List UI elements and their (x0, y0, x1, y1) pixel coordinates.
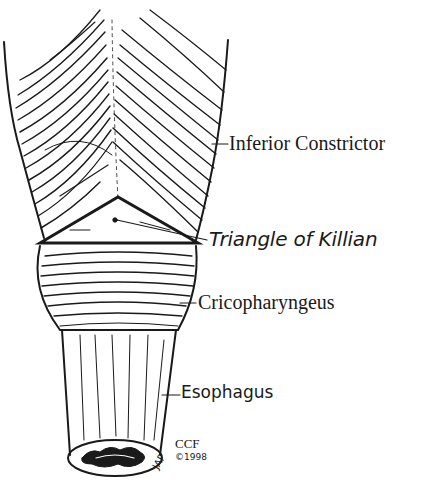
label-triangle-of-killian: Triangle of Killian (209, 229, 377, 249)
label-inferior-constrictor: Inferior Constrictor (229, 133, 385, 153)
cricopharyngeus-muscle (38, 246, 197, 330)
inferior-constrictor-muscle (4, 10, 228, 240)
label-esophagus: Esophagus (181, 384, 273, 401)
credit-org: CCF (175, 437, 200, 450)
label-cricopharyngeus: Cricopharyngeus (198, 292, 335, 312)
credit-copyright: ©1998 (175, 453, 207, 462)
